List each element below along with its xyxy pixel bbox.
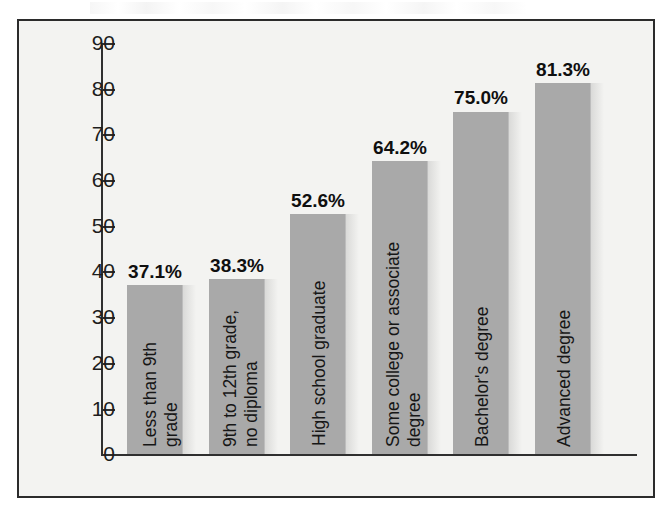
- y-tick-label: 40: [71, 260, 115, 281]
- y-tick-40: 40: [19, 271, 115, 273]
- bar-label: Advanced degree: [554, 187, 575, 447]
- bar-shadow: [508, 112, 522, 455]
- bar-value-label: 38.3%: [207, 255, 267, 277]
- bar-shadow: [427, 161, 441, 454]
- bar-label: Some college or associate degree: [383, 162, 424, 447]
- y-tick-label: 20: [71, 352, 115, 373]
- bar-value-label: 37.1%: [125, 261, 185, 283]
- bar-advanced-degree[interactable]: Advanced degree: [535, 83, 591, 454]
- bar-shadow: [264, 279, 278, 454]
- y-tick-80: 80: [19, 89, 115, 91]
- plot-area: 90 80 70 60 50 40: [19, 21, 657, 500]
- bar-shadow: [590, 83, 604, 454]
- y-tick-50: 50: [19, 226, 115, 228]
- y-tick-10: 10: [19, 409, 115, 411]
- bar-shadow: [182, 285, 196, 454]
- bar-bachelors-degree[interactable]: Bachelor's degree: [453, 112, 509, 455]
- bar-label: High school graduate: [309, 216, 330, 446]
- y-tick-90: 90: [19, 43, 115, 45]
- y-tick-30: 30: [19, 317, 115, 319]
- bar-shadow: [345, 214, 359, 454]
- y-tick-0: 0: [19, 454, 115, 456]
- y-tick-label: 80: [71, 78, 115, 99]
- bar-some-college-or-associate-degree[interactable]: Some college or associate degree: [372, 161, 428, 454]
- y-tick-label: 10: [71, 398, 115, 419]
- bar-less-than-9th-grade[interactable]: Less than 9th grade: [127, 285, 183, 454]
- x-axis-baseline: [101, 454, 637, 456]
- y-tick-label: 30: [71, 306, 115, 327]
- bar-label: Less than 9th grade: [140, 287, 181, 447]
- y-axis-line: [101, 43, 103, 456]
- bar-value-label: 75.0%: [451, 87, 511, 109]
- bar-value-label: 81.3%: [533, 59, 593, 81]
- y-tick-20: 20: [19, 363, 115, 365]
- bar-label: Bachelor's degree: [472, 187, 493, 447]
- y-tick-60: 60: [19, 180, 115, 182]
- bar-value-label: 52.6%: [288, 190, 348, 212]
- y-tick-label: 70: [71, 123, 115, 144]
- y-tick-label: 0: [71, 443, 115, 464]
- y-tick-label: 60: [71, 169, 115, 190]
- bar-value-label: 64.2%: [370, 137, 430, 159]
- y-tick-label: 50: [71, 215, 115, 236]
- chart-frame: 90 80 70 60 50 40: [17, 19, 655, 498]
- bar-9th-to-12th-grade-no-diploma[interactable]: 9th to 12th grade, no diploma: [209, 279, 265, 454]
- bar-high-school-graduate[interactable]: High school graduate: [290, 214, 346, 454]
- y-tick-label: 90: [71, 32, 115, 53]
- bar-label: 9th to 12th grade, no diploma: [220, 267, 261, 447]
- y-tick-70: 70: [19, 134, 115, 136]
- paper-artifact: [90, 2, 560, 14]
- chart-page: 90 80 70 60 50 40: [0, 0, 670, 512]
